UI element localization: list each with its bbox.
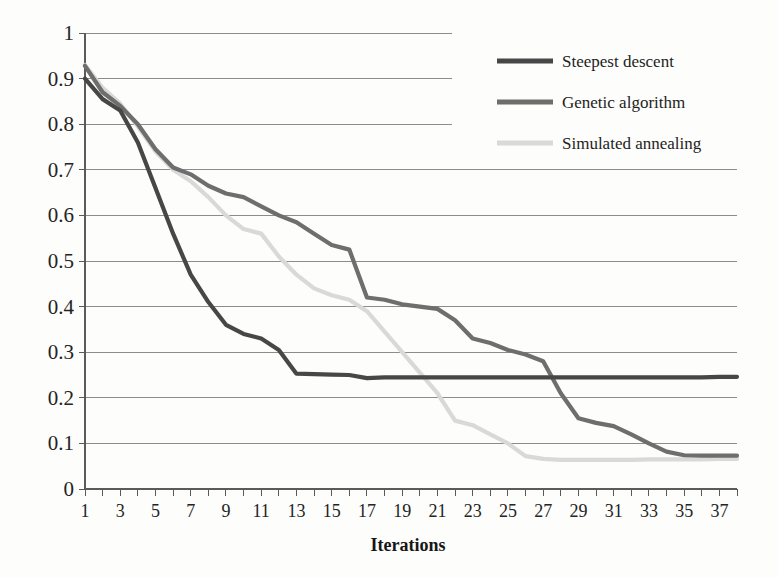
- legend: Steepest descentGenetic algorithmSimulat…: [497, 52, 702, 153]
- x-tick-label: 17: [358, 501, 376, 521]
- x-tick-label: 37: [710, 501, 728, 521]
- x-axis-title: Iterations: [371, 535, 446, 555]
- y-tick-label: 0.3: [48, 340, 74, 364]
- legend-label-simulated-annealing: Simulated annealing: [562, 134, 702, 153]
- x-tick-label: 25: [499, 501, 517, 521]
- y-tick-label: 0.6: [48, 203, 74, 227]
- x-tick-label: 35: [675, 501, 693, 521]
- y-tick-label: 0.7: [48, 158, 74, 182]
- convergence-line-chart: 00.10.20.30.40.50.60.70.80.9113579111315…: [0, 0, 778, 577]
- x-tick-label: 27: [534, 501, 552, 521]
- x-tick-label: 33: [640, 501, 658, 521]
- legend-label-steepest-descent: Steepest descent: [562, 52, 674, 71]
- y-tick-label: 0.5: [48, 249, 74, 273]
- x-tick-label: 9: [221, 501, 230, 521]
- y-tick-label: 0.8: [48, 112, 74, 136]
- x-tick-label: 29: [569, 501, 587, 521]
- x-axis-ticks: 135791113151719212325272931333537: [81, 489, 738, 521]
- y-tick-label: 0.2: [48, 386, 74, 410]
- x-tick-label: 7: [186, 501, 195, 521]
- x-tick-label: 11: [253, 501, 270, 521]
- x-tick-label: 21: [428, 501, 446, 521]
- x-tick-label: 23: [464, 501, 482, 521]
- y-axis-ticks: 00.10.20.30.40.50.60.70.80.91: [48, 21, 85, 501]
- legend-label-genetic-algorithm: Genetic algorithm: [562, 93, 685, 112]
- y-tick-label: 0.9: [48, 67, 74, 91]
- x-tick-label: 5: [151, 501, 160, 521]
- x-tick-label: 3: [116, 501, 125, 521]
- x-tick-label: 31: [605, 501, 623, 521]
- x-tick-label: 15: [323, 501, 341, 521]
- series-line-steepest-descent: [85, 79, 737, 379]
- chart-page: 00.10.20.30.40.50.60.70.80.9113579111315…: [0, 0, 778, 577]
- y-tick-label: 0.1: [48, 431, 74, 455]
- y-tick-label: 0.4: [48, 295, 75, 319]
- x-tick-label: 13: [287, 501, 305, 521]
- x-tick-label: 19: [393, 501, 411, 521]
- y-tick-label: 0: [64, 477, 75, 501]
- x-tick-label: 1: [81, 501, 90, 521]
- y-tick-label: 1: [64, 21, 75, 45]
